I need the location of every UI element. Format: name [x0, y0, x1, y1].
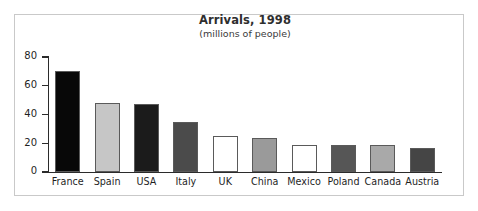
x-axis-category-label: China — [251, 176, 278, 188]
bar-group: Spain — [87, 57, 126, 172]
bar-china[interactable] — [252, 138, 277, 173]
bar-group: USA — [127, 57, 166, 172]
x-axis-category-label: Spain — [94, 176, 121, 188]
bar-usa[interactable] — [134, 104, 159, 172]
bar-group: China — [245, 57, 284, 172]
x-axis-category-label: USA — [137, 176, 157, 188]
plot-area: 020406080 FranceSpainUSAItalyUKChinaMexi… — [0, 0, 478, 211]
x-axis-category-label: France — [52, 176, 84, 188]
x-axis-category-label: Italy — [175, 176, 196, 188]
bar-series: FranceSpainUSAItalyUKChinaMexicoPolandCa… — [48, 57, 442, 172]
x-axis-category-label: Canada — [365, 176, 402, 188]
x-axis-category-label: Poland — [327, 176, 359, 188]
bar-group: Poland — [324, 57, 363, 172]
bar-spain[interactable] — [95, 103, 120, 172]
x-axis-category-label: Austria — [405, 176, 439, 188]
bar-group: Italy — [166, 57, 205, 172]
bar-canada[interactable] — [370, 145, 395, 172]
bar-group: UK — [206, 57, 245, 172]
y-axis-tick-label: 0 — [31, 164, 42, 177]
bar-uk[interactable] — [213, 136, 238, 172]
y-axis-tick-label: 80 — [24, 49, 42, 62]
y-axis-tick-label: 60 — [24, 78, 42, 91]
y-axis-tick-label: 40 — [24, 107, 42, 120]
bar-austria[interactable] — [410, 148, 435, 172]
y-axis-tick-label: 20 — [24, 136, 42, 149]
bar-group: Canada — [363, 57, 402, 172]
bar-italy[interactable] — [173, 122, 198, 172]
chart-page: Arrivals, 1998 (millions of people) 0204… — [0, 0, 478, 211]
bar-group: France — [48, 57, 87, 172]
bar-mexico[interactable] — [292, 145, 317, 172]
bar-group: Austria — [403, 57, 442, 172]
bar-group: Mexico — [284, 57, 323, 172]
x-axis-category-label: Mexico — [287, 176, 321, 188]
bar-poland[interactable] — [331, 145, 356, 172]
x-axis-category-label: UK — [219, 176, 232, 188]
bar-france[interactable] — [55, 71, 80, 172]
